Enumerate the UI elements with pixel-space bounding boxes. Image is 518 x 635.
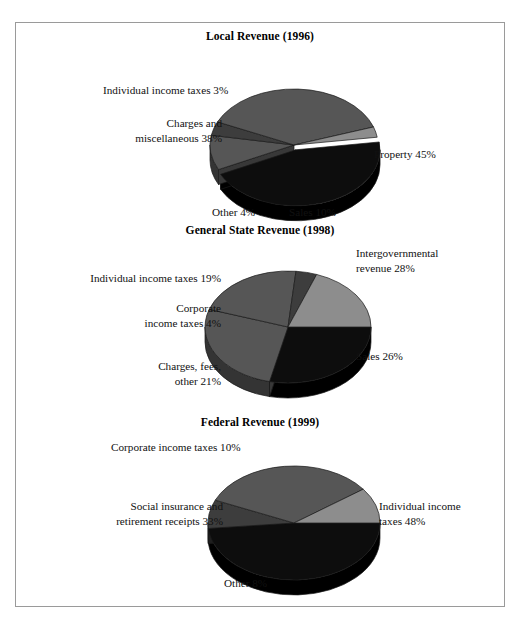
- pie-label-other: Other 8%: [224, 576, 267, 591]
- figure-frame: Local Revenue (1996) Property 45%Sales 1…: [15, 22, 505, 607]
- chart-general-state-revenue-1998: General State Revenue (1998) Intergovern…: [16, 219, 504, 411]
- pie-label-individual-income: Individual income taxes 48%: [379, 499, 461, 528]
- pie-label-charges-fees-other: Charges, fees, other 21%: [76, 359, 221, 388]
- pie-label-sales: Sales 26%: [356, 349, 403, 364]
- pie-label-individual-income: Individual income taxes 19%: [41, 271, 221, 286]
- pie-label-other: Other 4%: [212, 205, 255, 220]
- pie-label-corporate-income: Corporate income taxes 4%: [66, 301, 221, 330]
- pie-label-corporate-income: Corporate income taxes 10%: [111, 440, 241, 455]
- chart-local-revenue-1996: Local Revenue (1996) Property 45%Sales 1…: [16, 23, 504, 219]
- pie-label-social-insurance: Social insurance and retirement receipts…: [41, 499, 223, 528]
- pie-label-charges-misc: Charges and miscellaneous 38%: [59, 116, 222, 145]
- pie-label-individual-income: Individual income taxes 3%: [103, 83, 228, 98]
- chart-federal-revenue-1999: Federal Revenue (1999) Individual income…: [16, 411, 504, 607]
- pie-label-property: Property 45%: [374, 147, 436, 162]
- pie-label-sales: Sales 10%: [289, 205, 336, 220]
- pie-label-intergovernmental: Intergovernmental revenue 28%: [356, 246, 438, 275]
